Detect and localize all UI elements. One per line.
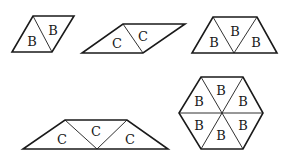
triangle-label: C xyxy=(138,29,148,44)
shape-diagram: B B C C B B B C C C B B B B B B xyxy=(0,0,285,160)
triangle-label: C xyxy=(57,132,67,147)
triangle-label: C xyxy=(91,124,101,139)
triangle-label: B xyxy=(48,23,58,38)
rhombus-c-shape: C C xyxy=(82,24,185,53)
triangle-label: B xyxy=(238,118,248,133)
hexagon-b-shape: B B B B B B xyxy=(179,77,263,149)
triangle-label: B xyxy=(251,35,261,50)
triangle-label: B xyxy=(194,94,204,109)
triangle-label: B xyxy=(27,34,37,49)
triangle-label: B xyxy=(230,24,240,39)
triangle-label: C xyxy=(125,132,135,147)
triangle-label: B xyxy=(216,83,226,98)
rhombus-b-shape: B B xyxy=(12,16,74,52)
triangle-label: B xyxy=(194,118,204,133)
triangle-label: B xyxy=(238,94,248,109)
triangle-label: B xyxy=(216,128,226,143)
triangle-label: C xyxy=(112,36,122,51)
triangle-label: B xyxy=(209,35,219,50)
trapezoid-b-shape: B B B xyxy=(192,17,277,53)
trapezoid-c-divider xyxy=(97,120,127,149)
trapezoid-c-shape: C C C xyxy=(23,120,168,149)
